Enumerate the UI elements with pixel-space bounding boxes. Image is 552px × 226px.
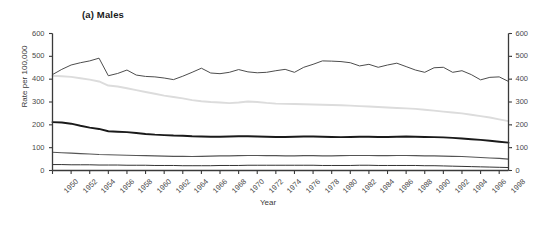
y-tick-label-right-200: 200: [516, 120, 540, 129]
y-tick-label-left-0: 0: [21, 166, 45, 175]
series-line-series_1: [53, 58, 509, 81]
series-line-series_3: [53, 122, 509, 143]
y-tick-label-left-300: 300: [21, 97, 45, 106]
series-line-series_4: [53, 152, 509, 159]
y-tick-label-left-500: 500: [21, 51, 45, 60]
page-title: (a) Males: [82, 9, 124, 20]
y-tick-label-left-100: 100: [21, 143, 45, 152]
series-line-series_5: [53, 165, 509, 168]
x-axis-title: Year: [218, 198, 318, 207]
y-tick-label-right-400: 400: [516, 74, 540, 83]
chart-figure: (a) Males Rate per 100,000 Year 01002003…: [0, 0, 552, 226]
y-tick-label-right-0: 0: [516, 166, 540, 175]
y-tick-label-left-200: 200: [21, 120, 45, 129]
y-tick-label-right-600: 600: [516, 29, 540, 38]
series-layer: [53, 58, 509, 167]
y-tick-label-right-500: 500: [516, 51, 540, 60]
y-tick-label-right-300: 300: [516, 97, 540, 106]
y-tick-label-left-600: 600: [21, 29, 45, 38]
y-tick-label-right-100: 100: [516, 143, 540, 152]
series-line-series_2: [53, 76, 509, 121]
y-tick-label-left-400: 400: [21, 74, 45, 83]
